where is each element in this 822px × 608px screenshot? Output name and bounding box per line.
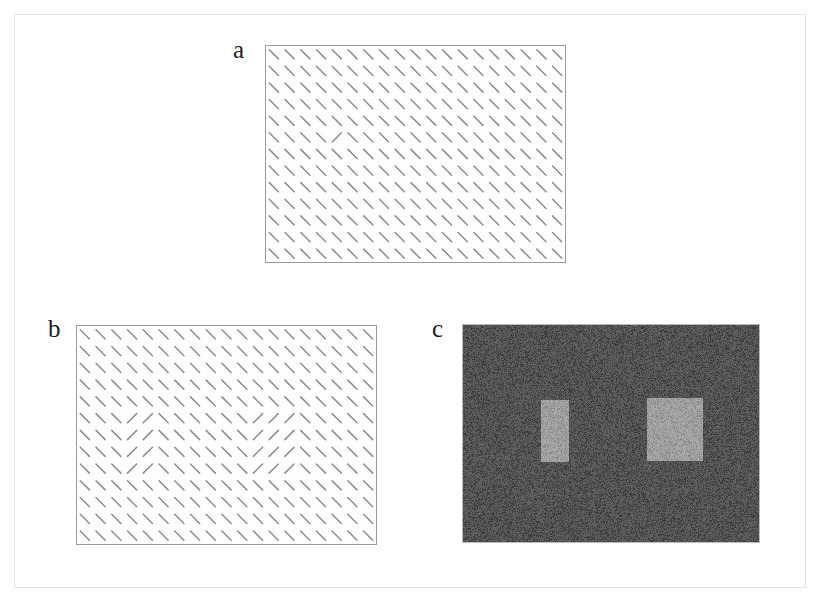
texture-line — [364, 514, 373, 523]
texture-line — [112, 497, 121, 506]
texture-line — [285, 330, 294, 339]
texture-line — [395, 149, 404, 158]
texture-line — [316, 133, 325, 142]
texture-line — [379, 232, 388, 241]
texture-line — [395, 199, 404, 208]
texture-line — [159, 464, 168, 473]
texture-line — [505, 232, 514, 241]
texture-line — [442, 199, 451, 208]
texture-line — [364, 464, 373, 473]
texture-line — [112, 430, 121, 439]
texture-line — [490, 183, 499, 192]
texture-line-odd — [253, 430, 262, 439]
texture-line — [96, 430, 105, 439]
texture-line — [474, 66, 483, 75]
texture-line — [537, 249, 546, 258]
texture-line — [190, 397, 199, 406]
texture-line — [332, 50, 341, 59]
texture-line — [222, 497, 231, 506]
texture-line — [285, 380, 294, 389]
texture-line — [301, 464, 310, 473]
texture-line — [238, 430, 247, 439]
panel-b-line-field — [77, 326, 376, 544]
texture-line — [269, 166, 278, 175]
texture-line — [190, 481, 199, 490]
texture-line — [190, 497, 199, 506]
texture-line — [505, 183, 514, 192]
texture-line — [348, 481, 357, 490]
texture-line — [96, 347, 105, 356]
texture-line — [316, 447, 325, 456]
texture-line — [127, 347, 136, 356]
texture-line — [332, 83, 341, 92]
texture-line — [80, 414, 89, 423]
texture-line — [490, 166, 499, 175]
texture-line — [285, 363, 294, 372]
texture-line — [80, 531, 89, 540]
texture-line — [269, 232, 278, 241]
texture-line — [238, 497, 247, 506]
texture-line-odd — [143, 447, 152, 456]
texture-line — [112, 330, 121, 339]
texture-line — [127, 397, 136, 406]
texture-line — [348, 133, 357, 142]
texture-line — [490, 232, 499, 241]
texture-line — [458, 232, 467, 241]
texture-line — [96, 514, 105, 523]
texture-line — [301, 380, 310, 389]
texture-line — [269, 363, 278, 372]
texture-line — [316, 116, 325, 125]
texture-line — [521, 116, 530, 125]
texture-line — [127, 481, 136, 490]
texture-line — [238, 397, 247, 406]
texture-line — [190, 531, 199, 540]
texture-line — [190, 347, 199, 356]
texture-line — [553, 249, 562, 258]
texture-line — [222, 380, 231, 389]
texture-line — [112, 464, 121, 473]
texture-line — [379, 166, 388, 175]
texture-line — [364, 414, 373, 423]
texture-line — [143, 380, 152, 389]
texture-line — [364, 166, 373, 175]
texture-line — [332, 497, 341, 506]
texture-line — [285, 149, 294, 158]
texture-line — [112, 397, 121, 406]
texture-line — [112, 514, 121, 523]
texture-line — [316, 464, 325, 473]
texture-line-odd — [253, 414, 262, 423]
texture-line — [96, 380, 105, 389]
texture-line — [474, 133, 483, 142]
texture-line — [442, 232, 451, 241]
texture-line — [316, 514, 325, 523]
texture-line — [411, 232, 420, 241]
texture-line-odd — [127, 447, 136, 456]
texture-line — [253, 397, 262, 406]
texture-line — [143, 363, 152, 372]
texture-line — [285, 166, 294, 175]
texture-line — [364, 232, 373, 241]
texture-line — [269, 66, 278, 75]
texture-line — [96, 531, 105, 540]
texture-line — [316, 183, 325, 192]
texture-line — [364, 133, 373, 142]
texture-line — [206, 497, 215, 506]
texture-line — [348, 447, 357, 456]
texture-line — [206, 464, 215, 473]
texture-line — [427, 100, 436, 109]
texture-line — [253, 347, 262, 356]
texture-line — [222, 430, 231, 439]
texture-line — [553, 100, 562, 109]
texture-line — [427, 66, 436, 75]
texture-line — [553, 232, 562, 241]
texture-line — [301, 133, 310, 142]
texture-line — [143, 531, 152, 540]
texture-line — [175, 380, 184, 389]
texture-line — [364, 430, 373, 439]
texture-line — [427, 183, 436, 192]
texture-line-odd — [285, 464, 294, 473]
texture-line-odd — [143, 430, 152, 439]
texture-line — [316, 66, 325, 75]
texture-line — [80, 380, 89, 389]
texture-line — [553, 216, 562, 225]
